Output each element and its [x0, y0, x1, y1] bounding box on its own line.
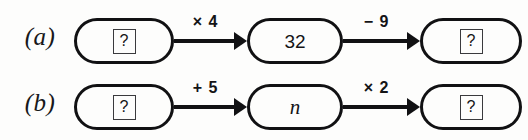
row-a-node-input-value: ?: [113, 29, 136, 54]
row-a-node-output-value: ?: [460, 29, 483, 54]
row-b-operation-2-label: × 2: [343, 78, 420, 98]
row-a-arrow-1: × 4: [174, 18, 247, 64]
arrow-head-icon: [234, 98, 247, 116]
arrow-shaft: [174, 39, 236, 43]
row-a-arrow-2: − 9: [343, 18, 420, 64]
row-b-node-input: ?: [74, 84, 174, 130]
arrow-shaft: [343, 105, 409, 109]
row-b-arrow-2: × 2: [343, 84, 420, 130]
row-a-node-middle: 32: [247, 18, 343, 64]
row-a-operation-1-label: × 4: [174, 12, 247, 32]
row-label-a: (a): [14, 22, 66, 52]
diagram-row-a: (a) ? × 4 32 − 9 ?: [0, 10, 528, 72]
row-a-node-middle-value: 32: [284, 32, 305, 51]
arrow-head-icon: [407, 32, 420, 50]
row-b-operation-1-label: + 5: [174, 78, 247, 98]
arrow-shaft: [343, 39, 409, 43]
row-b-arrow-1: + 5: [174, 84, 247, 130]
arrow-shaft: [174, 105, 236, 109]
row-b-node-input-value: ?: [113, 95, 136, 120]
row-b-node-middle-value: n: [290, 97, 301, 118]
row-label-b: (b): [14, 88, 66, 118]
row-a-node-input: ?: [74, 18, 174, 64]
row-a-node-output: ?: [420, 18, 522, 64]
arrow-head-icon: [407, 98, 420, 116]
row-a-operation-2-label: − 9: [343, 12, 420, 32]
row-b-node-output-value: ?: [460, 95, 483, 120]
row-b-node-output: ?: [420, 84, 522, 130]
row-b-node-middle: n: [247, 84, 343, 130]
arrow-head-icon: [234, 32, 247, 50]
function-machine-diagram: (a) ? × 4 32 − 9 ? (b) ? + 5: [0, 0, 528, 140]
diagram-row-b: (b) ? + 5 n × 2 ?: [0, 76, 528, 138]
